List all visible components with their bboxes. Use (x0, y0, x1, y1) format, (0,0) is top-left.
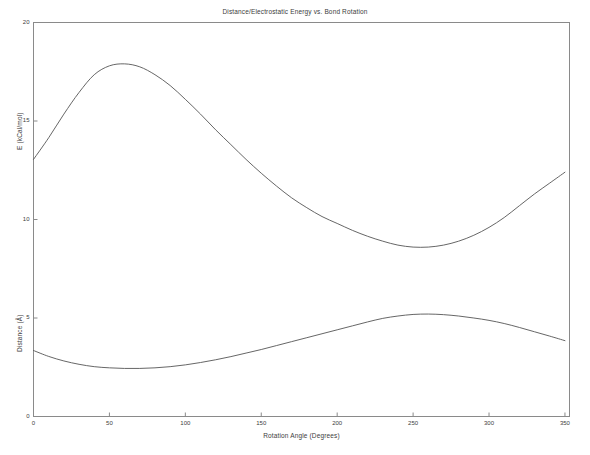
y-tick-label: 20 (14, 19, 30, 25)
y-tick-label: 5 (14, 314, 30, 320)
x-tick-label: 250 (401, 420, 425, 426)
x-tick-label: 150 (249, 420, 273, 426)
y-axis-label-distance: Distance (Å) (16, 314, 23, 352)
chart-figure: Distance/Electrostatic Energy vs. Bond R… (0, 0, 590, 455)
x-tick-label: 200 (325, 420, 349, 426)
x-tick-label: 50 (97, 420, 121, 426)
data-series-group (34, 64, 565, 369)
series-line-distance (34, 314, 565, 368)
chart-title: Distance/Electrostatic Energy vs. Bond R… (0, 8, 590, 15)
axes-group (34, 23, 570, 417)
axis-ticks-group (34, 23, 565, 417)
x-axis-label: Rotation Angle (Degrees) (33, 432, 570, 439)
plot-frame (34, 23, 570, 417)
x-tick-label: 300 (477, 420, 501, 426)
x-tick-label: 0 (22, 420, 46, 426)
x-tick-label: 350 (553, 420, 577, 426)
y-tick-label: 10 (14, 216, 30, 222)
series-line-energy (34, 64, 565, 247)
y-tick-label: 15 (14, 117, 30, 123)
x-tick-label: 100 (173, 420, 197, 426)
y-tick-label: 0 (14, 413, 30, 419)
plot-area (0, 0, 590, 455)
